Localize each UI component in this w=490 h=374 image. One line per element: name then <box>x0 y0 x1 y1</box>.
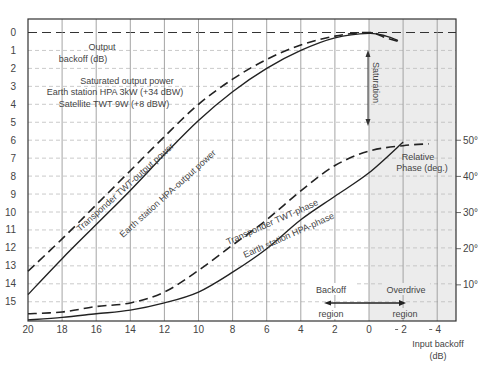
x-tick-label: 2 <box>401 324 407 335</box>
x-tick-label: 4 <box>298 324 304 335</box>
y2-axis-title-line2: Phase (deg.) <box>396 163 448 173</box>
annotation-saturation: Saturation <box>371 62 381 103</box>
x-tick-label: 18 <box>57 324 69 335</box>
y2-tick-label: 10° <box>463 279 478 290</box>
y-tick-label: 13 <box>5 260 17 271</box>
backoff-arrow-head <box>324 301 331 306</box>
x-tick-label: 0 <box>366 324 372 335</box>
x-tick-label: 10 <box>193 324 205 335</box>
x-tick-label: 16 <box>91 324 103 335</box>
x-tick-label: 8 <box>230 324 236 335</box>
y-tick-label: 9 <box>10 189 16 200</box>
y-tick-label: 0 <box>10 27 16 38</box>
y-tick-label: 2 <box>10 63 16 74</box>
y-tick-label: 5 <box>10 117 16 128</box>
y-tick-label: 1 <box>10 45 16 56</box>
y-axis-title-line1: Output <box>88 42 116 52</box>
y-tick-label: 10 <box>5 207 17 218</box>
annotation-backoff-line1: Backoff <box>316 285 346 295</box>
label-hpa-output-power: Earth station HPA-output power <box>118 148 218 240</box>
x-tick-label: 4 <box>435 324 441 335</box>
annotation-saturated-title: Saturated output power <box>80 76 174 86</box>
x-tick-label: 14 <box>125 324 137 335</box>
y2-tick-label: 40° <box>463 171 478 182</box>
x-tick-label: 6 <box>264 324 270 335</box>
y2-tick-label: 50° <box>463 135 478 146</box>
x-axis-title-line1: Input backoff <box>412 339 464 349</box>
annotation-overdrive-line2: region <box>392 309 417 319</box>
x-axis-ticks: 2018161412108642024 <box>22 324 441 335</box>
y-axis-title-line2: backoff (dB) <box>59 54 107 64</box>
x-tick-label: 12 <box>159 324 171 335</box>
y2-tick-label: 30° <box>463 207 478 218</box>
y-tick-label: 7 <box>10 153 16 164</box>
y-tick-label: 12 <box>5 242 17 253</box>
series-earth-station-hpa-output-power <box>28 33 398 294</box>
x-tick-label: 20 <box>22 324 34 335</box>
y-tick-label: 6 <box>10 135 16 146</box>
label-twt-output-power: Transponder TWT-output power <box>75 141 176 233</box>
y-tick-label: 3 <box>10 81 16 92</box>
y-tick-label: 4 <box>10 99 16 110</box>
annotation-twt-power: Satellite TWT 9W (+8 dBW) <box>59 99 169 109</box>
y2-axis-title-line1: Relative <box>402 152 435 162</box>
x-axis-title-line2: (dB) <box>429 351 446 361</box>
annotation-overdrive-line1: Overdrive <box>386 285 425 295</box>
annotation-hpa-power: Earth station HPA 3kW (+34 dBW) <box>47 87 184 97</box>
y-tick-label: 11 <box>6 224 17 235</box>
y-tick-label: 8 <box>10 171 16 182</box>
y-tick-label: 14 <box>5 278 17 289</box>
annotation-backoff-line2: region <box>318 309 343 319</box>
x-tick-label: 2 <box>332 324 338 335</box>
y2-tick-label: 20° <box>463 243 478 254</box>
y-axis-ticks: 0123456789101112131415 <box>5 27 17 307</box>
y2-axis-ticks: 10°20°30°40°50° <box>456 135 478 291</box>
chart: 2018161412108642024 01234567891011121314… <box>0 0 490 374</box>
y-tick-label: 15 <box>5 296 17 307</box>
